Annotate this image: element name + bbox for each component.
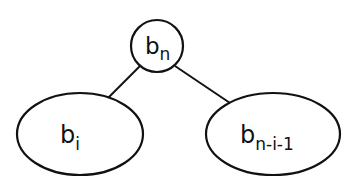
right-base: b: [240, 121, 255, 149]
root-sub: n: [160, 44, 171, 64]
root-base: b: [145, 33, 160, 59]
right-sub: n-i-1: [255, 134, 294, 154]
right-child-node: bn-i-1: [206, 93, 340, 175]
left-base: b: [60, 121, 75, 149]
root-node: bn: [131, 20, 183, 72]
edge-root-right: [175, 66, 230, 103]
edge-root-left: [108, 66, 140, 98]
left-child-node: bi: [17, 93, 143, 175]
tree-diagram: bn bi bn-i-1: [0, 0, 345, 191]
left-sub: i: [75, 134, 80, 154]
